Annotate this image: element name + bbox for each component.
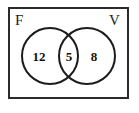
- set-label-f: F: [15, 13, 23, 28]
- region-value-v-only: 8: [87, 50, 101, 63]
- region-value-f-only: 12: [30, 50, 48, 63]
- set-label-v: V: [109, 13, 120, 28]
- region-value-intersection: 5: [62, 50, 76, 63]
- venn-diagram-figure: F V 12 5 8: [0, 0, 139, 113]
